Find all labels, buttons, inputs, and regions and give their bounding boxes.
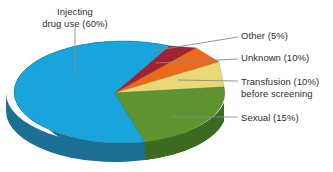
slice-label-sexual-line1: Sexual (15%) [241,112,299,124]
slice-label-other-line1: Other (5%) [241,30,288,42]
slice-label-sexual: Sexual (15%) [241,112,299,124]
slice-label-transfusion-line1: Transfusion (10%) [241,76,319,88]
slice-label-transfusion: Transfusion (10%) before screening [241,76,319,99]
pie-chart-figure: Injecting drug use (60%) Other (5%) Unkn… [0,0,333,172]
slice-label-injecting-drug-use: Injecting drug use (60%) [22,6,128,29]
slice-label-unknown: Unknown (10%) [241,52,309,64]
slice-label-other: Other (5%) [241,30,288,42]
slice-label-injecting-drug-use-line1: Injecting [22,6,128,18]
slice-label-transfusion-line2: before screening [241,88,319,100]
slice-label-injecting-drug-use-line2: drug use (60%) [22,18,128,30]
slice-label-unknown-line1: Unknown (10%) [241,52,309,64]
pie-top-faces [14,41,225,143]
